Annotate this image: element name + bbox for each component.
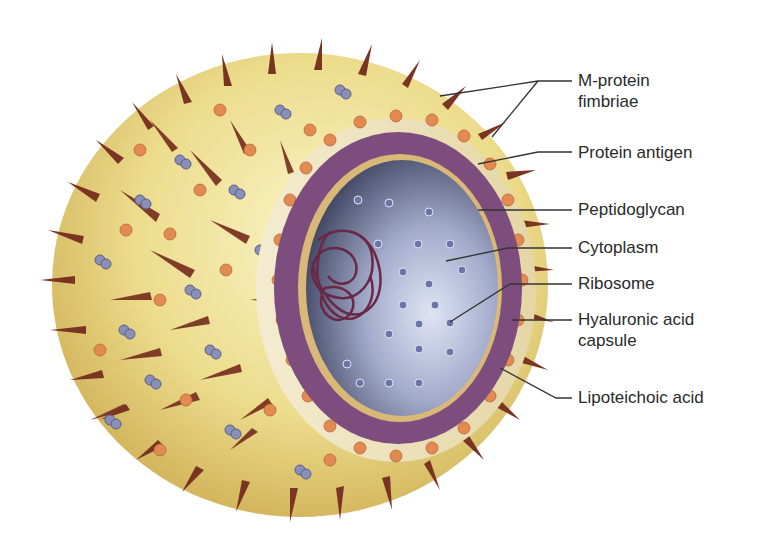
label-line: capsule: [578, 330, 694, 351]
label-ribosome: Ribosome: [578, 273, 655, 294]
label-peptidoglycan: Peptidoglycan: [578, 199, 685, 220]
label-line: Lipoteichoic acid: [578, 387, 704, 408]
label-line: Cytoplasm: [578, 237, 658, 258]
label-line: fimbriae: [578, 91, 650, 112]
label-line: Ribosome: [578, 273, 655, 294]
label-line: M-protein: [578, 70, 650, 91]
label-line: Protein antigen: [578, 142, 692, 163]
label-m-protein-fimbriae: M-protein fimbriae: [578, 70, 650, 112]
label-line: Hyaluronic acid: [578, 309, 694, 330]
label-cytoplasm: Cytoplasm: [578, 237, 658, 258]
label-line: Peptidoglycan: [578, 199, 685, 220]
label-lipoteichoic-acid: Lipoteichoic acid: [578, 387, 704, 408]
label-hyaluronic-acid-capsule: Hyaluronic acid capsule: [578, 309, 694, 351]
label-protein-antigen: Protein antigen: [578, 142, 692, 163]
